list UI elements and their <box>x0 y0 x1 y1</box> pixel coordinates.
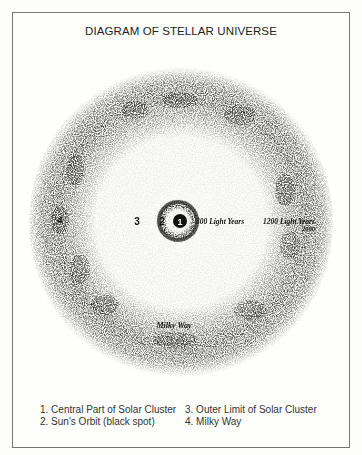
legend-item-1: 1. Central Part of Solar Cluster <box>40 404 176 416</box>
legend-right-column: 3. Outer Limit of Solar Cluster 4. Milky… <box>185 404 317 428</box>
marker-2: 2 <box>159 216 165 227</box>
legend-left-column: 1. Central Part of Solar Cluster 2. Sun'… <box>40 404 176 428</box>
marker-4: 4 <box>57 215 62 225</box>
label-2000: 2000 <box>301 225 316 232</box>
label-milky-way: Milky Way <box>155 321 191 330</box>
marker-1: 1 <box>177 217 182 227</box>
legend-item-3: 3. Outer Limit of Solar Cluster <box>185 404 317 416</box>
stellar-universe-diagram: 1 2 3 4 300 Light Years 1200 Light Years… <box>0 0 362 455</box>
marker-3: 3 <box>134 216 140 227</box>
legend-item-2: 2. Sun's Orbit (black spot) <box>40 416 176 428</box>
legend-item-4: 4. Milky Way <box>185 416 317 428</box>
label-300-light-years: 300 Light Years <box>195 217 244 226</box>
